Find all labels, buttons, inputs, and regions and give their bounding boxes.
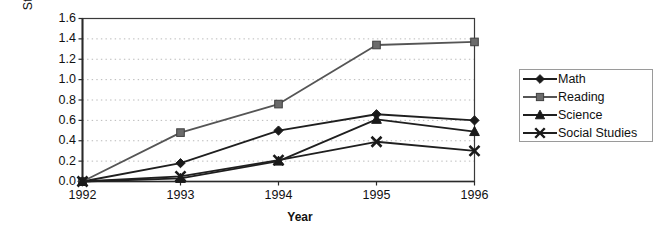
series-social-studies [78,137,480,187]
legend-label: Science [558,109,602,122]
legend-item-social-studies[interactable]: Social Studies [520,124,652,142]
legend-label: Math [558,73,586,86]
chart-legend: MathReadingScienceSocial Studies [519,69,653,142]
legend-item-math[interactable]: Math [520,70,652,88]
data-point-marker [176,159,185,168]
x-axis-title: Year [200,210,400,224]
data-point-marker [275,100,283,108]
legend-item-reading[interactable]: Reading [520,88,652,106]
cross-x-marker-icon [522,124,558,142]
legend-label: Reading [558,91,605,104]
chart-figure: Standard deviation 0.00.20.40.60.81.01.2… [0,0,660,237]
data-point-marker [536,75,545,84]
square-marker-icon [522,88,558,106]
legend-label: Social Studies [558,127,637,140]
series-science [78,114,480,185]
legend-item-science[interactable]: Science [520,106,652,124]
data-point-marker [274,126,283,135]
triangle-marker-icon [522,106,558,124]
data-point-marker [536,93,543,100]
data-point-marker [177,129,185,137]
data-point-marker [373,41,381,49]
series-math [78,110,479,186]
diamond-marker-icon [522,70,558,88]
data-point-marker [471,38,479,46]
data-point-marker [470,116,479,125]
